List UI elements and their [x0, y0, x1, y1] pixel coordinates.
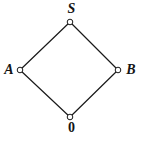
- node-bottom-zero: [67, 114, 73, 120]
- node-top-s: [67, 19, 73, 25]
- edge-group: [20, 22, 118, 117]
- node-right-b: [115, 67, 121, 73]
- node-left-a: [17, 67, 23, 73]
- lattice-diagram: S A B 0: [0, 0, 143, 141]
- edge-a-to-s: [20, 22, 70, 70]
- edge-a-to-zero: [20, 70, 70, 117]
- node-label-left: A: [2, 63, 16, 77]
- node-label-bottom: 0: [0, 121, 143, 135]
- node-label-right: B: [124, 63, 138, 77]
- node-label-top: S: [0, 2, 143, 16]
- edge-zero-to-b: [70, 70, 118, 117]
- edge-s-to-b: [70, 22, 118, 70]
- node-group: [17, 19, 121, 120]
